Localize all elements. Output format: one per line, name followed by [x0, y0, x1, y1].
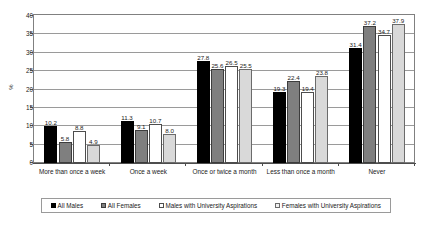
bar-slot: 11.3: [121, 15, 134, 163]
legend-item[interactable]: All Males: [51, 202, 83, 209]
category-tick: [263, 163, 339, 167]
bar-slot: 9.1: [135, 15, 148, 163]
bar-slot: 25.6: [211, 15, 224, 163]
bar-groups: 10.25.88.84.911.39.110.78.027.825.626.52…: [34, 15, 415, 163]
bar-value-label: 23.8: [316, 69, 328, 77]
y-axis: 0510152025303540: [0, 0, 33, 228]
category-label: Less than once a month: [263, 168, 339, 177]
bar-value-label: 26.5: [226, 59, 238, 67]
legend-item[interactable]: All Females: [101, 202, 140, 209]
category-label: Once or twice a month: [186, 168, 262, 177]
bar-value-label: 19.4: [302, 85, 314, 93]
category-tick: [186, 163, 262, 167]
category-label: Never: [339, 168, 415, 177]
bar-slot: 19.4: [301, 15, 314, 163]
bar-group: 27.825.626.525.5: [186, 15, 262, 163]
bar-slot: 8.0: [163, 15, 176, 163]
bar-value-label: 11.3: [121, 114, 133, 122]
legend-swatch-icon: [159, 203, 164, 208]
bar-slot: 4.9: [87, 15, 100, 163]
bar-slot: 34.7: [378, 15, 391, 163]
bar-slot: 19.3: [273, 15, 286, 163]
bar[interactable]: 19.3: [273, 92, 286, 163]
bar[interactable]: 22.4: [287, 81, 300, 163]
legend-item[interactable]: Males with University Aspirations: [159, 202, 257, 209]
bar-value-label: 10.7: [149, 117, 161, 125]
category-label: More than once a week: [34, 168, 110, 177]
bar[interactable]: 8.8: [73, 131, 86, 163]
bar-value-label: 19.3: [273, 85, 285, 93]
legend-swatch-icon: [101, 203, 106, 208]
bar-value-label: 4.9: [89, 138, 98, 146]
bar-slot: 37.2: [363, 15, 376, 163]
bar[interactable]: 26.5: [225, 66, 238, 163]
category-tick: [34, 163, 110, 167]
bar-value-label: 31.4: [350, 41, 362, 49]
chart-legend: All MalesAll FemalesMales with Universit…: [41, 198, 391, 213]
legend-label: All Females: [108, 202, 141, 209]
bar-slot: 10.7: [149, 15, 162, 163]
y-axis-title: %: [8, 80, 14, 94]
category-tick-marks: [34, 163, 415, 167]
bar-value-label: 8.8: [75, 124, 84, 132]
bar[interactable]: 25.6: [211, 69, 224, 163]
bar-group: 10.25.88.84.9: [34, 15, 110, 163]
legend-label: Females with University Aspirations: [282, 202, 381, 209]
bar-slot: 10.2: [44, 15, 57, 163]
bar-slot: 8.8: [73, 15, 86, 163]
bar[interactable]: 8.0: [163, 134, 176, 163]
bar-group: 19.322.419.423.8: [263, 15, 339, 163]
legend-label: All Males: [58, 202, 84, 209]
bar[interactable]: 9.1: [135, 130, 148, 163]
bar[interactable]: 4.9: [87, 145, 100, 163]
bar[interactable]: 5.8: [59, 142, 72, 163]
bar-value-label: 37.9: [392, 17, 404, 25]
bar-slot: 31.4: [349, 15, 362, 163]
bar[interactable]: 34.7: [378, 35, 391, 163]
legend-item[interactable]: Females with University Aspirations: [275, 202, 381, 209]
bar-value-label: 22.4: [288, 74, 300, 82]
bar-value-label: 10.2: [45, 119, 57, 127]
bar-slot: 23.8: [315, 15, 328, 163]
legend-swatch-icon: [275, 203, 280, 208]
bar[interactable]: 10.2: [44, 126, 57, 163]
bar-slot: 5.8: [59, 15, 72, 163]
bar[interactable]: 37.2: [363, 26, 376, 163]
category-labels: More than once a weekOnce a weekOnce or …: [34, 168, 415, 177]
bar[interactable]: 23.8: [315, 76, 328, 163]
bar[interactable]: 25.5: [239, 69, 252, 163]
bar-slot: 37.9: [392, 15, 405, 163]
legend-label: Males with University Aspirations: [165, 202, 257, 209]
bar-chart: 0510152025303540 % 10.25.88.84.911.39.11…: [0, 0, 433, 228]
bar[interactable]: 27.8: [197, 61, 210, 163]
category-tick: [110, 163, 186, 167]
bar-group: 31.437.234.737.9: [339, 15, 415, 163]
bar[interactable]: 19.4: [301, 92, 314, 163]
bar-slot: 26.5: [225, 15, 238, 163]
bar-value-label: 27.8: [197, 54, 209, 62]
bar-value-label: 34.7: [378, 28, 390, 36]
bar-slot: 22.4: [287, 15, 300, 163]
category-tick: [339, 163, 415, 167]
bar-group: 11.39.110.78.0: [110, 15, 186, 163]
bar[interactable]: 37.9: [392, 24, 405, 163]
legend-swatch-icon: [51, 203, 56, 208]
bar-value-label: 25.5: [240, 62, 252, 70]
bar-slot: 25.5: [239, 15, 252, 163]
bar[interactable]: 31.4: [349, 48, 362, 163]
bar-value-label: 9.1: [137, 123, 146, 131]
bar[interactable]: 11.3: [121, 121, 134, 163]
bar-slot: 27.8: [197, 15, 210, 163]
bar-value-label: 8.0: [165, 127, 174, 135]
bar-value-label: 25.6: [211, 62, 223, 70]
category-label: Once a week: [110, 168, 186, 177]
bar-value-label: 37.2: [364, 19, 376, 27]
bar-value-label: 5.8: [61, 135, 70, 143]
bar[interactable]: 10.7: [149, 124, 162, 163]
